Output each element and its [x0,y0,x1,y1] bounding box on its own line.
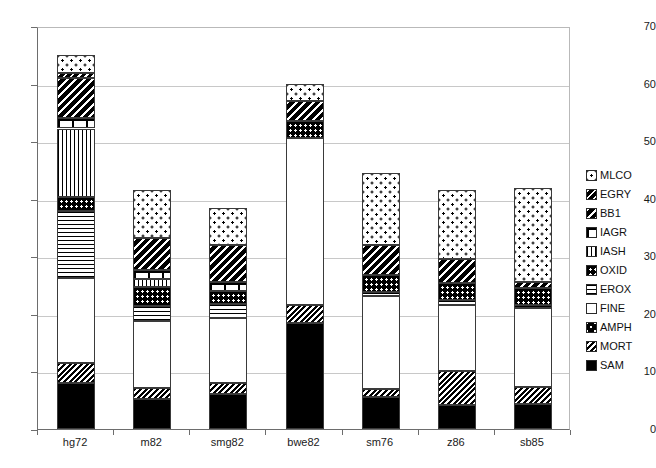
legend-label: EGRY [600,189,631,200]
bar-segment-sm76-MORT[interactable] [362,389,400,396]
bar-segment-z86-SAM[interactable] [438,405,476,429]
bar-segment-sb85-OXID[interactable] [514,288,552,305]
bar-segment-z86-MORT[interactable] [438,371,476,405]
bar-segment-sm76-FINE[interactable] [362,296,400,389]
bar-segment-z86-OXID[interactable] [438,283,476,300]
bar-segment-sb85-FINE[interactable] [514,308,552,387]
x-axis-tick-mark [113,430,114,435]
legend-label: EROX [600,284,631,295]
bar-segment-smg82-BB1[interactable] [209,245,247,282]
bar-segment-smg82-SAM[interactable] [209,394,247,429]
legend-item-IAGR[interactable]: IAGR [586,223,656,242]
x-axis-tick-mark [494,430,495,435]
bar-segment-m82-EROX[interactable] [133,306,171,321]
x-axis-tick-mark [189,430,190,435]
legend-label: IASH [600,246,626,257]
bar-segment-sb85-MLCO[interactable] [514,188,552,281]
x-axis-tick-label-bwe82: bwe82 [264,436,344,448]
bar-segment-smg82-OXID[interactable] [209,291,247,304]
bar-segment-sb85-BB1[interactable] [514,282,552,288]
bar-segment-m82-IASH[interactable] [133,279,171,287]
bar-segment-hg72-EROX[interactable] [57,211,95,277]
bar-segment-sm76-SAM[interactable] [362,397,400,429]
legend-item-BB1[interactable]: BB1 [586,204,656,223]
bar-segment-smg82-IAGR[interactable] [209,282,247,291]
y-axis-tick-label: 70 [628,21,656,32]
legend-item-EROX[interactable]: EROX [586,280,656,299]
bar-segment-m82-IAGR[interactable] [133,270,171,279]
bar-segment-z86-BB1[interactable] [438,259,476,283]
bar-segment-sm76-OXID[interactable] [362,275,400,292]
bar-segment-bwe82-BB1[interactable] [286,101,324,121]
bar-segment-sm76-MLCO[interactable] [362,173,400,245]
bar-smg82[interactable] [209,26,247,429]
x-axis-tick-label-sb85: sb85 [492,436,572,448]
stacked-bar-chart: 010203040506070 hg72m82smg82bwe82sm76z86… [0,0,656,468]
bar-segment-smg82-EROX[interactable] [209,304,247,318]
bar-segment-sm76-EROX[interactable] [362,292,400,296]
bar-segment-z86-MLCO[interactable] [438,190,476,259]
bar-sb85[interactable] [514,26,552,429]
bar-segment-m82-OXID[interactable] [133,287,171,306]
legend-swatch-BB1-icon [586,208,597,219]
legend-item-OXID[interactable]: OXID [586,261,656,280]
bar-segment-hg72-MORT[interactable] [57,363,95,383]
bar-segment-bwe82-OXID[interactable] [286,121,324,138]
bar-segment-bwe82-MORT[interactable] [286,305,324,322]
bar-segment-bwe82-MLCO[interactable] [286,84,324,101]
bar-segment-hg72-IASH[interactable] [57,129,95,198]
x-axis-tick-label-hg72: hg72 [35,436,115,448]
legend-swatch-FINE-icon [586,303,597,314]
x-axis-tick-mark [570,430,571,435]
bar-z86[interactable] [438,26,476,429]
legend-item-MORT[interactable]: MORT [586,337,656,356]
bar-segment-z86-FINE[interactable] [438,305,476,371]
bar-m82[interactable] [133,26,171,429]
bar-bwe82[interactable] [286,26,324,429]
x-axis-tick-mark [342,430,343,435]
bar-segment-hg72-EGRY[interactable] [57,73,95,78]
bar-segment-m82-BB1[interactable] [133,238,171,270]
bar-segment-smg82-MLCO[interactable] [209,208,247,245]
legend-item-EGRY[interactable]: EGRY [586,185,656,204]
legend-label: BB1 [600,208,621,219]
legend-swatch-AMPH-icon [586,322,597,333]
y-axis-tick-label: 0 [628,424,656,435]
bar-segment-sm76-BB1[interactable] [362,245,400,275]
bar-segment-hg72-IAGR[interactable] [57,118,95,128]
x-axis-tick-mark [37,430,38,435]
bar-segment-hg72-MLCO[interactable] [57,55,95,73]
chart-legend: MLCOEGRYBB1IAGRIASHOXIDEROXFINEAMPHMORTS… [586,166,656,375]
x-axis-tick-label-sm76: sm76 [340,436,420,448]
bar-segment-smg82-MORT[interactable] [209,383,247,395]
bar-segment-smg82-FINE[interactable] [209,318,247,382]
bar-segment-z86-EROX[interactable] [438,300,476,305]
legend-item-MLCO[interactable]: MLCO [586,166,656,185]
bar-hg72[interactable] [57,26,95,429]
bar-segment-m82-FINE[interactable] [133,321,171,388]
bar-segment-bwe82-SAM[interactable] [286,323,324,430]
legend-item-IASH[interactable]: IASH [586,242,656,261]
legend-label: OXID [600,265,627,276]
bar-segment-sb85-EROX[interactable] [514,305,552,308]
legend-label: IAGR [600,227,627,238]
legend-label: FINE [600,303,625,314]
bar-segment-m82-MLCO[interactable] [133,190,171,239]
legend-swatch-SAM-icon [586,360,597,371]
bar-segment-hg72-BB1[interactable] [57,78,95,118]
bar-segment-m82-SAM[interactable] [133,399,171,429]
legend-item-AMPH[interactable]: AMPH [586,318,656,337]
legend-item-SAM[interactable]: SAM [586,356,656,375]
bar-segment-sb85-MORT[interactable] [514,387,552,404]
bar-segment-sb85-SAM[interactable] [514,404,552,429]
bar-segment-hg72-OXID[interactable] [57,197,95,211]
legend-item-FINE[interactable]: FINE [586,299,656,318]
bar-segment-hg72-SAM[interactable] [57,383,95,429]
x-axis-tick-mark [265,430,266,435]
bar-segment-bwe82-FINE[interactable] [286,138,324,305]
bar-sm76[interactable] [362,26,400,429]
bar-segment-hg72-FINE[interactable] [57,278,95,363]
y-axis-tick-label: 50 [628,136,656,147]
bar-segment-m82-MORT[interactable] [133,388,171,400]
legend-label: MORT [600,341,632,352]
